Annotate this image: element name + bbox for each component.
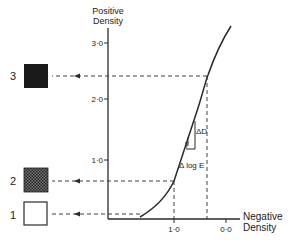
x-tick-label: 0·0 [220,225,232,234]
y-tick-label: 1·0 [91,156,103,165]
y-tick-label: 2·0 [91,95,103,104]
characteristic-curve [140,26,231,217]
arrow-icon [74,212,80,217]
sample-label-1: 1 [10,209,16,221]
sample-label-3: 3 [10,70,16,82]
y-tick-label: 3·0 [91,39,103,48]
sample-label-2: 2 [10,175,16,187]
arrow-icon [74,74,80,79]
sample-square-1 [24,202,47,225]
delta-log-e-label: Δ log E [179,161,204,170]
density-diagram: 3·0 2·0 1·0 1·0 0·0 Positive Density Neg… [0,0,289,240]
sample-square-2 [24,168,48,192]
delta-d-label: ΔD [196,127,207,136]
arrow-icon [74,179,80,184]
gamma-label: γ [185,140,189,148]
x-axis-title-line1: Negative [243,211,283,222]
x-axis-title-line2: Density [243,222,276,233]
x-tick-label: 1·0 [168,225,180,234]
sample-square-3 [24,64,48,88]
y-axis-title-line1: Positive [92,6,124,16]
y-axis-title-line2: Density [93,16,124,26]
